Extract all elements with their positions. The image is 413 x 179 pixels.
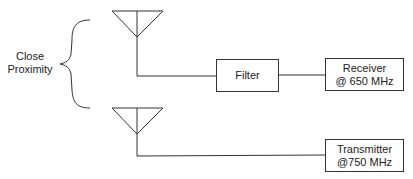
receiver-box: Receiver @ 650 MHz	[325, 58, 404, 91]
close-proximity-label: Close Proximity	[4, 50, 56, 76]
transmitter-box: Transmitter @750 MHz	[325, 139, 404, 172]
filter-box: Filter	[216, 59, 279, 92]
label-line-1: Close	[4, 50, 56, 63]
curly-bracket	[60, 20, 90, 108]
receiver-frequency: @ 650 MHz	[335, 75, 393, 88]
antenna-icon-top	[112, 11, 216, 76]
receiver-label: Receiver	[343, 62, 386, 75]
antenna-icon-bottom	[112, 108, 325, 156]
transmitter-label: Transmitter	[337, 143, 392, 156]
filter-label: Filter	[235, 69, 259, 82]
transmitter-frequency: @750 MHz	[337, 156, 392, 169]
label-line-2: Proximity	[4, 63, 56, 76]
